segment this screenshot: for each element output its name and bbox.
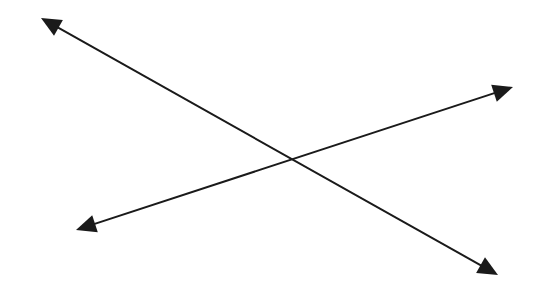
diagram-canvas [0,0,537,298]
line-descending-stroke [50,23,490,270]
line-ascending-stroke [86,90,504,227]
line-ascending-arrowhead-start-icon [76,215,98,232]
line-descending-arrowhead-end-icon [476,257,498,275]
line-descending-arrowhead-start-icon [41,18,63,36]
line-ascending-arrowhead-end-icon [491,85,513,102]
